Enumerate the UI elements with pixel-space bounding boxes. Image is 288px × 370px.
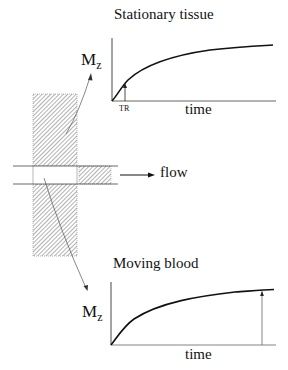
tissue-slab-upper — [33, 94, 77, 166]
steady-state-arrow-icon — [260, 291, 264, 346]
flow-arrow-icon — [120, 173, 155, 178]
vessel-channel — [33, 166, 77, 184]
top-curve — [112, 45, 273, 101]
top-chart — [112, 38, 276, 101]
bottom-y-label: Mz — [82, 302, 102, 325]
flow-label: flow — [160, 164, 188, 181]
bottom-chart — [111, 282, 276, 345]
tr-label: TR — [119, 104, 129, 113]
blood-bolus — [79, 166, 111, 184]
bottom-panel-title: Moving blood — [113, 255, 198, 272]
top-y-label: Mz — [81, 50, 101, 73]
tissue-slab-lower — [33, 184, 77, 256]
top-x-label: time — [185, 101, 212, 118]
bottom-curve — [111, 290, 274, 346]
bottom-x-label: time — [185, 346, 212, 363]
diagram-canvas — [0, 0, 288, 370]
top-panel-title: Stationary tissue — [114, 6, 214, 23]
